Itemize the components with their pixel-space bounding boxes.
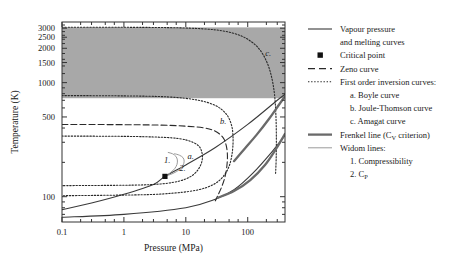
y-tick-label: 1500 [38,58,55,68]
critical-point-marker [162,174,167,179]
x-tick-label: 1 [122,227,126,237]
legend-item-label-7: c. Amagat curve [350,116,406,126]
curve-label-2: 2. [179,163,185,173]
y-tick-label: 100 [42,192,55,202]
curve-label-b: b. [220,116,226,126]
y-tick-label: 3000 [38,23,55,33]
legend-label-tail: criterion) [396,130,430,140]
x-tick-label: 10 [182,227,191,237]
legend-item-label-8: Frenkel line (CV criterion) [340,130,430,141]
curve-label-1: 1. [164,155,170,165]
x-tick-label: 100 [241,227,254,237]
figure-root: 100500100015002000250030000.1110100Press… [0,0,470,264]
x-axis-title: Pressure (MPa) [144,243,203,254]
y-axis-title: Temperature (K) [10,90,21,153]
curve-label-c: c. [265,48,271,58]
x-tick-label: 0.1 [57,227,68,237]
legend-item-label-4: First order inversion curves: [340,77,436,87]
shaded-supercritical-band [62,27,285,98]
shaded-band-rect [62,27,285,98]
y-tick-label: 2500 [38,32,55,42]
legend-item-label-2: Critical point [340,50,386,60]
thermodynamic-phase-chart: 100500100015002000250030000.1110100Press… [0,0,470,264]
legend-item-label-0: Vapour pressure [340,24,395,34]
legend-item-label-1: and melting curves [340,37,405,47]
legend-item-label-3: Zeno curve [340,64,379,74]
legend-item-label-6: b. Joule-Thomson curve [350,103,433,113]
legend-subscript-2: P [364,173,368,180]
legend-item-label-9: Widom lines: [340,143,386,153]
legend-item-label-10: 1. Compressibility [350,156,414,166]
y-tick-label: 1000 [38,78,55,88]
legend-item-label-5: a. Boyle curve [350,90,400,100]
y-tick-label: 2000 [38,43,55,53]
curve-label-a: a. [188,151,194,161]
legend-marker-critical-point [318,52,323,57]
y-tick-label: 500 [42,112,55,122]
